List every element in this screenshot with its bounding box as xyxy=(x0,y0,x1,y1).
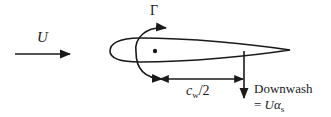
freestream-label: U xyxy=(37,30,48,45)
downwash-equation: = Uαs xyxy=(254,98,284,114)
half-chord-fraction: /2 xyxy=(199,83,210,98)
circulation-arrow-upper xyxy=(136,28,166,52)
alpha-symbol: α xyxy=(274,97,281,112)
downwash-label: Downwash xyxy=(254,82,313,95)
airfoil-downwash-diagram: U Γ cw/2 Downwash = Uαs xyxy=(0,0,331,117)
circulation-label: Γ xyxy=(150,4,158,18)
freestream-symbol: U xyxy=(265,97,274,112)
equals-sign: = xyxy=(254,97,265,112)
half-chord-label: cw/2 xyxy=(186,84,210,100)
bound-vortex-dot xyxy=(153,49,157,53)
circulation-arrow-lower xyxy=(136,52,162,79)
alpha-subscript: s xyxy=(281,104,285,114)
